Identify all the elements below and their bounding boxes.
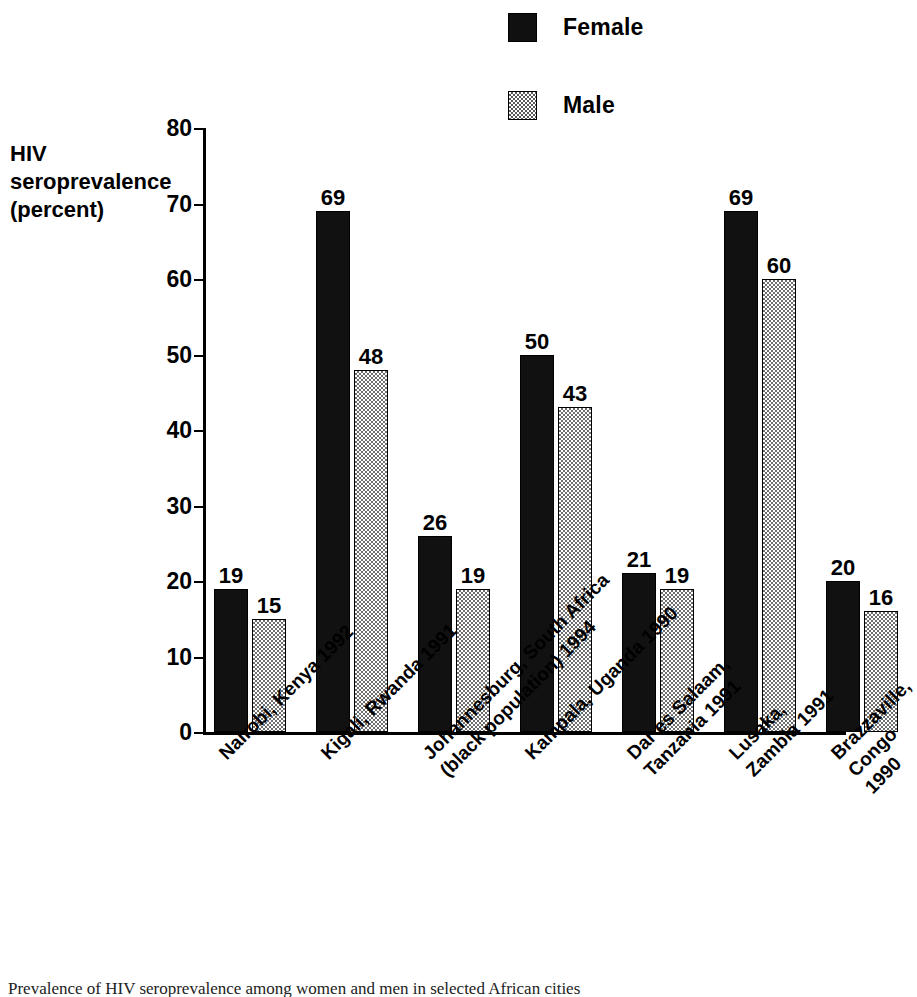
y-tick-label: 70 — [166, 190, 192, 217]
bar-value-label: 69 — [729, 187, 753, 209]
bar-value-label: 15 — [257, 595, 281, 617]
bar-group: 6960 — [724, 128, 800, 732]
bar-value-label: 26 — [423, 512, 447, 534]
bar-value-label: 16 — [869, 587, 893, 609]
y-tick-mark — [194, 128, 204, 130]
bar-group: 2016 — [826, 128, 902, 732]
y-tick-label: 50 — [166, 341, 192, 368]
bar-value-label: 48 — [359, 346, 383, 368]
bar-value-label: 50 — [525, 331, 549, 353]
legend-label-male: Male — [563, 92, 615, 119]
y-tick-label: 20 — [166, 568, 192, 595]
bar-value-label: 69 — [321, 187, 345, 209]
bar-male: 60 — [762, 279, 796, 732]
bar-value-label: 19 — [219, 565, 243, 587]
y-tick-mark — [194, 732, 204, 734]
bar-value-label: 19 — [461, 565, 485, 587]
figure-caption: Prevalence of HIV seroprevalence among w… — [8, 978, 848, 997]
bar-male: 48 — [354, 370, 388, 732]
bar-female: 69 — [724, 211, 758, 732]
legend-swatch-female-icon — [508, 13, 537, 42]
y-tick-label: 40 — [166, 417, 192, 444]
bar-value-label: 43 — [563, 383, 587, 405]
legend-swatch-male-icon — [508, 91, 537, 120]
legend-item-male: Male — [508, 90, 808, 120]
y-tick-mark — [194, 657, 204, 659]
bar-value-label: 20 — [831, 557, 855, 579]
legend-label-female: Female — [563, 14, 643, 41]
bar-value-label: 60 — [767, 255, 791, 277]
y-tick-mark — [194, 430, 204, 432]
bar-female: 19 — [214, 589, 248, 732]
y-tick-mark — [194, 581, 204, 583]
y-tick-label: 10 — [166, 643, 192, 670]
y-tick-label: 60 — [166, 266, 192, 293]
y-axis-title: HIV seroprevalence (percent) — [10, 140, 185, 224]
bar-group: 1915 — [214, 128, 290, 732]
y-tick-label: 0 — [179, 719, 192, 746]
y-tick-label: 30 — [166, 492, 192, 519]
y-tick-label: 80 — [166, 115, 192, 142]
legend-item-female: Female — [508, 12, 808, 42]
bar-value-label: 21 — [627, 549, 651, 571]
y-tick-mark — [194, 355, 204, 357]
bar-value-label: 19 — [665, 565, 689, 587]
y-tick-mark — [194, 506, 204, 508]
y-tick-mark — [194, 279, 204, 281]
y-tick-mark — [194, 204, 204, 206]
